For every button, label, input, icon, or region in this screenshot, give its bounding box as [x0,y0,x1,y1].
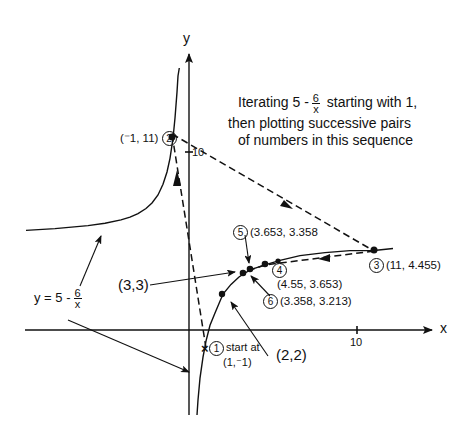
x-axis-label: x [440,321,447,335]
iteration-diagram: × [0,0,472,439]
point-5-label: 5(3.653, 3.358 [233,225,318,240]
eq-arrow-lower [68,320,189,372]
point-4-label: 4 [272,263,289,278]
point-3 [371,247,378,254]
fixed-point-3-3-label: (3,3) [118,277,149,292]
point-1-marker: × [201,341,209,356]
point-2-label: (⁻1, 11) 2 [120,131,179,146]
hyperbola-left-branch [26,68,179,230]
equation-fraction: 6x [74,288,82,309]
path-direction-arrows [173,170,330,262]
point-6-label: 6(3.358, 3.213) [263,294,352,309]
point-5 [247,266,254,273]
title-line-2: then plotting successive pairs [228,115,411,131]
eq-arrow-upper [80,236,101,286]
point-4-coords: (4.55, 3.653) [277,279,342,291]
y-axis-label: y [183,31,190,45]
iteration-path [172,134,374,348]
marker-5: 5 [233,225,248,240]
title-line-1: Iterating 5 -6x starting with 1, [238,93,417,114]
equation-label: y = 5 -6x [34,288,85,309]
title-prefix: Iterating 5 - [238,94,309,110]
arrowhead-left [318,254,330,262]
marker-6: 6 [263,294,278,309]
point-6 [240,270,247,277]
title-line-3: of numbers in this sequence [238,132,413,148]
arrow-point-6 [251,276,270,296]
point-1-label: 1start at [209,341,260,356]
point-1-coords: (1,⁻1) [223,357,252,368]
title-fraction: 6x [312,93,320,114]
iteration-points: × [169,134,378,357]
marker-4: 4 [272,263,287,278]
marker-2: 2 [162,131,177,146]
point-4 [262,261,269,268]
arrowhead-up [173,170,181,186]
arrowhead-right-down [280,200,293,209]
title-suffix: starting with 1, [327,94,417,110]
x-tick-label-10: 10 [350,337,362,348]
fixed-point-2-2-label: (2,2) [276,347,307,362]
y-tick-label-10: 10 [192,147,204,158]
marker-1: 1 [209,341,224,356]
marker-3: 3 [369,258,384,273]
point-3-label: 3(11, 4.455) [369,258,441,273]
arrow-3-3 [150,272,235,285]
fixed-point-2-2-dot [219,291,225,297]
